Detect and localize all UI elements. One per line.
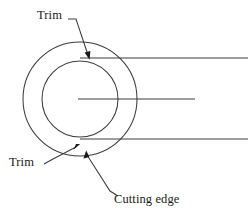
- trim-top-leader-line: [68, 19, 88, 55]
- diagram-drawing: [0, 0, 248, 223]
- label-cutting-edge: Cutting edge: [114, 193, 179, 206]
- cutting-edge-leader-line: [87, 155, 118, 196]
- diagram-canvas: Trim Trim Cutting edge: [0, 0, 248, 223]
- trim-bottom-arrowhead: [74, 144, 81, 149]
- label-trim-top: Trim: [37, 9, 62, 22]
- label-trim-bottom: Trim: [9, 156, 34, 169]
